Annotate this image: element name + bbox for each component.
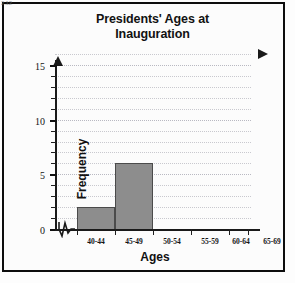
ytick-9	[51, 131, 56, 132]
ytick-1	[51, 218, 56, 219]
ytick-11	[51, 109, 56, 110]
gridline-13	[55, 87, 251, 88]
plot-area: 0 5 10 15	[55, 54, 270, 229]
gridline-15	[55, 65, 251, 66]
xtick-label-55-59: 55-59	[201, 237, 219, 246]
ytick-14	[51, 76, 56, 77]
xtick-b1	[115, 229, 116, 235]
figure-screen: 2.12 Presidents' Ages at Inauguration 0	[0, 0, 295, 283]
ytick-3	[51, 196, 56, 197]
xtick-b0	[77, 229, 78, 235]
xtick-b4	[229, 229, 230, 235]
xtick-b5	[248, 229, 249, 235]
ytick-label-0: 0	[40, 226, 45, 236]
gridline-14	[55, 76, 251, 77]
ytick-6	[51, 163, 56, 164]
ytick-10: 10	[50, 120, 57, 122]
ytick-8	[51, 142, 56, 143]
gridline-11	[55, 109, 251, 110]
ytick-15: 15	[50, 65, 57, 67]
xtick-label-65-69: 65-69	[263, 237, 281, 246]
ytick-7	[51, 152, 56, 153]
chart-title: Presidents' Ages at Inauguration	[55, 12, 250, 42]
ytick-12	[51, 98, 56, 99]
ytick-2	[51, 207, 56, 208]
xtick-b3	[191, 229, 192, 235]
xtick-label-50-54: 50-54	[163, 237, 181, 246]
ytick-13	[51, 87, 56, 88]
xtick-label-45-49: 45-49	[125, 237, 143, 246]
xtick-label-40-44: 40-44	[87, 237, 105, 246]
xtick-label-60-64: 60-64	[232, 237, 250, 246]
ytick-label-10: 10	[35, 117, 45, 127]
y-axis-title: Frequency	[75, 124, 89, 214]
ytick-5: 5	[50, 174, 57, 176]
axis-break-icon	[56, 220, 76, 238]
gridline-10	[55, 120, 251, 121]
gridline-12	[55, 98, 251, 99]
x-axis-arrow-icon	[258, 49, 268, 59]
ytick-label-15: 15	[35, 62, 45, 72]
chart-title-line2: Inauguration	[55, 27, 250, 42]
bar-45-49	[115, 163, 153, 230]
corner-page-tag: 2.12	[1, 0, 12, 7]
ytick-4	[51, 185, 56, 186]
x-axis-title: Ages	[55, 250, 255, 264]
y-axis-line	[55, 60, 57, 229]
ytick-label-5: 5	[40, 171, 45, 181]
chart-title-line1: Presidents' Ages at	[55, 12, 250, 27]
gridline-16	[55, 54, 251, 55]
xtick-b2	[153, 229, 154, 235]
